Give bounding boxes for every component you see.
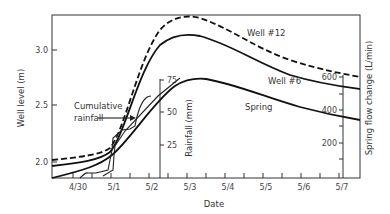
svg-text:5/4: 5/4: [222, 183, 235, 192]
svg-text:Rainfall (mm): Rainfall (mm): [184, 99, 194, 157]
svg-text:5/1: 5/1: [108, 183, 121, 192]
svg-text:200: 200: [322, 139, 337, 148]
svg-text:50: 50: [167, 108, 177, 117]
series-spring: [52, 79, 360, 178]
svg-text:2.5: 2.5: [35, 101, 48, 110]
svg-text:Well level (m): Well level (m): [16, 69, 26, 127]
label-cumulative: Cumulative: [74, 101, 123, 111]
svg-text:Spring flow change (L/min): Spring flow change (L/min): [364, 41, 374, 156]
svg-text:25: 25: [167, 141, 177, 150]
svg-text:5/3: 5/3: [184, 183, 197, 192]
svg-text:Date: Date: [204, 199, 224, 209]
rainfall-axis: 75 50 25 Rainfall (mm): [160, 76, 194, 178]
svg-text:5/7: 5/7: [336, 183, 349, 192]
svg-text:75: 75: [167, 76, 177, 85]
svg-text:5/6: 5/6: [298, 183, 311, 192]
label-well-6: Well #6: [268, 76, 301, 86]
label-spring: Spring: [245, 102, 272, 112]
svg-text:5/5: 5/5: [260, 183, 273, 192]
left-axis: 2.0 2.5 3.0 Well level (m): [16, 46, 57, 167]
label-well-12: Well #12: [247, 28, 286, 38]
svg-text:2.0: 2.0: [35, 158, 48, 167]
label-rainfall: rainfall: [74, 113, 103, 123]
svg-text:4/30: 4/30: [69, 183, 87, 192]
chart-svg: 2.0 2.5 3.0 Well level (m) 4/30 5/1 5/2 …: [0, 0, 390, 214]
svg-text:3.0: 3.0: [35, 46, 48, 55]
svg-text:5/2: 5/2: [146, 183, 159, 192]
spring-flow-axis: 600 400 200 Spring flow change (L/min): [322, 41, 374, 178]
svg-text:600: 600: [322, 73, 337, 82]
